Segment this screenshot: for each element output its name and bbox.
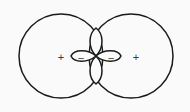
minus-sign-left: –	[78, 52, 84, 63]
diagram-figure: + + – –	[0, 0, 190, 112]
diagram-canvas: + + – –	[0, 0, 190, 112]
minus-sign-right: –	[108, 52, 114, 63]
plus-sign-left: +	[58, 51, 64, 63]
plus-sign-right: +	[133, 51, 139, 63]
